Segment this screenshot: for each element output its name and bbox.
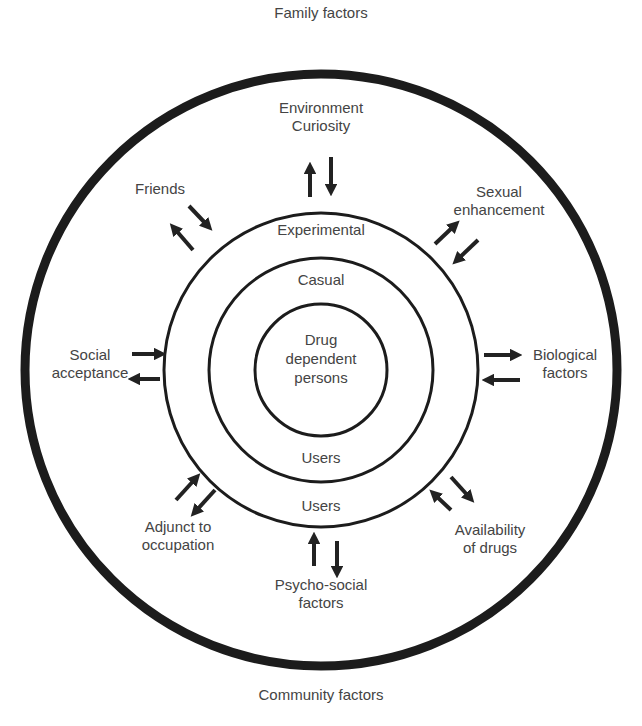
community-factors-label: Community factors xyxy=(221,686,421,704)
experimental-label: Experimental xyxy=(246,221,396,239)
arrow-sexual-in xyxy=(457,240,478,260)
arrow-availability-out xyxy=(451,477,470,498)
experimental-users-label: Users xyxy=(251,497,391,515)
factor-adjunct-occupation: Adjunct to occupation xyxy=(118,518,238,554)
casual-users-label: Users xyxy=(251,449,391,467)
arrow-friends-in xyxy=(189,206,208,226)
factor-sexual-enhancement: Sexual enhancement xyxy=(424,183,574,219)
arrow-friends-out xyxy=(174,228,193,250)
arrow-adjunct-out xyxy=(176,478,196,500)
factor-biological: Biological factors xyxy=(515,346,615,382)
arrow-sexual-out xyxy=(435,225,455,244)
center-label: Drug dependent persons xyxy=(251,330,391,387)
arrow-adjunct-in xyxy=(195,490,215,512)
factor-psycho-social: Psycho-social factors xyxy=(246,576,396,612)
factor-availability: Availability of drugs xyxy=(430,521,550,557)
factor-social-acceptance: Social acceptance xyxy=(40,346,140,382)
casual-label: Casual xyxy=(251,271,391,289)
family-factors-label: Family factors xyxy=(221,4,421,22)
factor-friends: Friends xyxy=(110,180,210,198)
arrow-availability-in xyxy=(434,494,451,510)
factor-environment: Environment Curiosity xyxy=(241,99,401,135)
